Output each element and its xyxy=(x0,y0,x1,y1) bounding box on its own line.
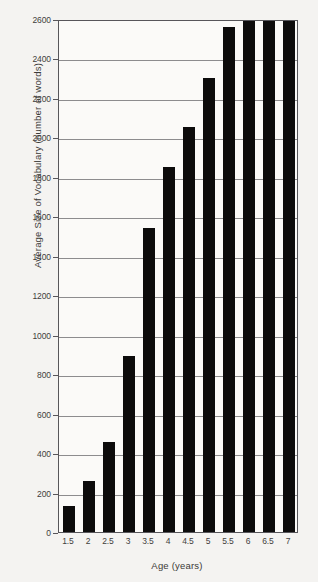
y-axis-tick-label: 2200 xyxy=(3,94,51,104)
x-axis-tick-label: 2 xyxy=(86,536,91,546)
y-axis-tick-label: 1800 xyxy=(3,173,51,183)
x-axis-title: Age (years) xyxy=(56,560,298,571)
bar xyxy=(143,228,155,532)
x-axis-tick-label: 5.5 xyxy=(222,536,234,546)
gridline xyxy=(59,416,297,417)
x-axis-tick-label: 3 xyxy=(126,536,131,546)
gridline xyxy=(59,60,297,61)
gridline xyxy=(59,258,297,259)
gridline xyxy=(59,455,297,456)
y-axis-tick-label: 2000 xyxy=(3,133,51,143)
x-axis-tick-label: 2.5 xyxy=(102,536,114,546)
bar xyxy=(203,78,215,532)
bar xyxy=(163,167,175,532)
bar xyxy=(83,481,95,532)
bar-chart-figure: Average Size of Vocabulary (number of wo… xyxy=(0,0,318,582)
gridline xyxy=(59,297,297,298)
gridline xyxy=(59,139,297,140)
x-axis-tick-label: 5 xyxy=(206,536,211,546)
bar xyxy=(263,20,275,532)
y-axis-tick-label: 2600 xyxy=(3,15,51,25)
x-axis-tick-label: 1.5 xyxy=(62,536,74,546)
x-axis-tick-label: 6.5 xyxy=(262,536,274,546)
y-axis-tick-label: 400 xyxy=(3,449,51,459)
y-axis-tick-label: 0 xyxy=(3,528,51,538)
x-axis-tick-labels: 1.522.533.544.555.566.57 xyxy=(58,536,298,554)
plot-area xyxy=(58,20,298,533)
bar xyxy=(283,20,295,532)
gridline xyxy=(59,337,297,338)
y-axis-tick-label: 800 xyxy=(3,370,51,380)
gridline xyxy=(59,179,297,180)
y-axis-tick-labels: 0200400600800100012001400160018002000220… xyxy=(0,0,51,582)
x-axis-tick-label: 6 xyxy=(246,536,251,546)
x-axis-tick-label: 4 xyxy=(166,536,171,546)
bar xyxy=(183,127,195,532)
gridline xyxy=(59,100,297,101)
bar xyxy=(63,506,75,532)
x-axis-tick-label: 7 xyxy=(286,536,291,546)
y-axis-tick-label: 1200 xyxy=(3,291,51,301)
y-axis-tick-label: 600 xyxy=(3,410,51,420)
bar xyxy=(103,442,115,532)
y-axis-tick-label: 1400 xyxy=(3,252,51,262)
y-axis-tick-label: 2400 xyxy=(3,54,51,64)
gridline xyxy=(59,376,297,377)
y-axis-tick-label: 200 xyxy=(3,489,51,499)
bar xyxy=(123,356,135,532)
x-axis-tick-label: 4.5 xyxy=(182,536,194,546)
bar xyxy=(223,27,235,532)
gridline xyxy=(59,218,297,219)
bar xyxy=(243,20,255,532)
y-axis-tick xyxy=(53,533,58,534)
y-axis-tick-label: 1000 xyxy=(3,331,51,341)
x-axis-tick-label: 3.5 xyxy=(142,536,154,546)
y-axis-tick-label: 1600 xyxy=(3,212,51,222)
